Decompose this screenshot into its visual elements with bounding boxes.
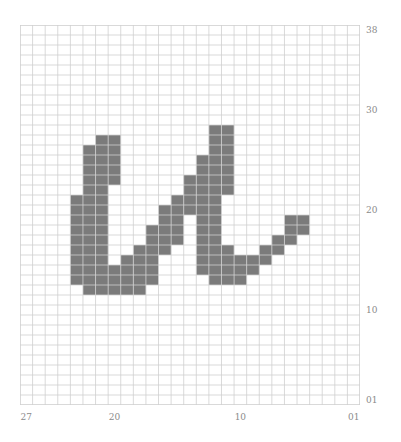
y-axis-label: 38 [366, 25, 377, 35]
filled-cell-run [70, 195, 83, 285]
filled-cell-run [221, 125, 234, 195]
filled-cell-run [284, 215, 297, 245]
filled-cell-run [159, 205, 172, 255]
pixel-grid [20, 25, 360, 405]
filled-cell-run [83, 145, 96, 295]
filled-cell-run [108, 135, 121, 185]
filled-cell-run [108, 265, 121, 295]
filled-cell-run [234, 255, 247, 285]
filled-cell-run [133, 245, 146, 295]
y-axis-label: 30 [366, 105, 377, 115]
y-axis-label: 20 [366, 205, 377, 215]
grid-canvas [20, 25, 360, 405]
x-axis-label: 10 [235, 412, 246, 422]
filled-cell-run [171, 195, 184, 245]
y-axis-label: 01 [366, 395, 377, 405]
y-axis-label: 10 [366, 305, 377, 315]
x-axis-label: 01 [348, 412, 359, 422]
x-axis-label: 20 [109, 412, 120, 422]
x-axis-label: 27 [21, 412, 32, 422]
